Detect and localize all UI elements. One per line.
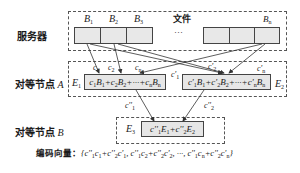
arrows	[0, 0, 300, 173]
